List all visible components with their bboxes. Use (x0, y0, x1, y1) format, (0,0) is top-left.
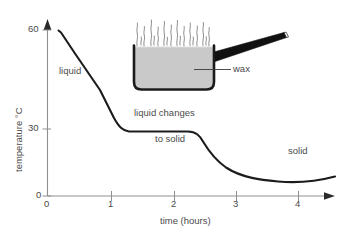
annotation-to-solid: to solid (155, 134, 185, 144)
x-axis-title: time (hours) (160, 216, 211, 226)
x-axis-arrowhead (324, 192, 335, 200)
y-tick-label-60: 60 (28, 24, 39, 34)
x-tick-label-0: 0 (44, 199, 49, 209)
x-tick-label-4: 4 (295, 199, 300, 209)
cooling-curve-figure: 60 30 0 0 1 2 3 4 time (hours) temperatu… (0, 0, 344, 238)
pan-handle (212, 33, 287, 62)
pan-wax-fill (134, 47, 214, 89)
wax-label: wax (233, 64, 250, 74)
x-tick-label-1: 1 (108, 199, 113, 209)
y-axis-arrowhead (44, 19, 52, 30)
y-tick-label-30: 30 (28, 123, 39, 133)
pan-illustration (134, 20, 289, 90)
y-tick-label-0: 0 (36, 190, 41, 200)
x-tick-label-3: 3 (233, 199, 238, 209)
steam-squiggles (137, 20, 210, 46)
annotation-liquid-changes: liquid changes (134, 108, 195, 118)
y-axis-title: temperature °C (14, 107, 24, 172)
x-tick-label-2: 2 (171, 199, 176, 209)
annotation-liquid: liquid (59, 66, 81, 76)
annotation-solid: solid (288, 146, 308, 156)
